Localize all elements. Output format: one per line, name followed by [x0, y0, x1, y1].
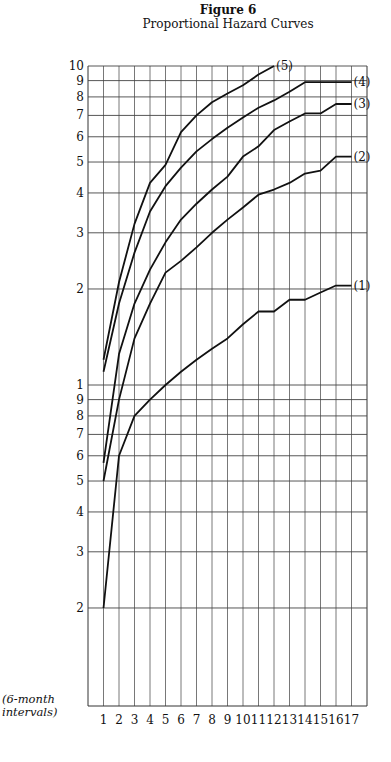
x-tick-label: 1 — [100, 713, 108, 727]
y-tick-label: 2 — [76, 282, 84, 296]
y-tick-label: 8 — [76, 409, 84, 423]
y-tick-label: 1 — [76, 378, 84, 392]
x-tick-label: 5 — [162, 713, 170, 727]
y-tick-label: 9 — [76, 393, 84, 407]
y-tick-label: 9 — [76, 74, 84, 88]
y-tick-label: 6 — [76, 449, 84, 463]
hazard-curves: (5)(4)(3)(2)(1) — [104, 59, 371, 608]
y-tick-label: 6 — [76, 130, 84, 144]
y-tick-label: 3 — [76, 545, 84, 559]
curve-label: (5) — [276, 59, 293, 73]
x-tick-label: 15 — [313, 713, 328, 727]
curve-label: (4) — [354, 75, 371, 89]
y-tick-label: 4 — [76, 505, 84, 519]
x-tick-label: 12 — [266, 713, 281, 727]
y-tick-label: 7 — [76, 108, 84, 122]
x-tick-label: 10 — [235, 713, 250, 727]
x-tick-label: 7 — [193, 713, 201, 727]
y-tick-label: 7 — [76, 427, 84, 441]
y-tick-label: 10 — [69, 59, 84, 73]
y-axis-ticks: 1098765432198765432 — [69, 59, 85, 615]
x-tick-label: 3 — [131, 713, 139, 727]
x-tick-label: 14 — [297, 713, 313, 727]
hazard-chart: 1098765432198765432 12345678910111213141… — [0, 0, 391, 762]
x-tick-label: 16 — [328, 713, 343, 727]
y-tick-label: 5 — [76, 155, 84, 169]
x-tick-label: 6 — [177, 713, 185, 727]
x-tick-label: 9 — [224, 713, 232, 727]
x-tick-label: 17 — [344, 713, 359, 727]
curve-label: (1) — [354, 279, 371, 293]
curve-label: (3) — [354, 97, 371, 111]
y-tick-label: 3 — [76, 226, 84, 240]
grid — [88, 66, 367, 706]
y-tick-label: 4 — [76, 186, 84, 200]
x-tick-label: 8 — [208, 713, 216, 727]
curve-label: (2) — [354, 150, 371, 164]
x-tick-label: 4 — [146, 713, 154, 727]
x-tick-label: 13 — [282, 713, 297, 727]
x-tick-label: 2 — [115, 713, 123, 727]
y-tick-label: 5 — [76, 474, 84, 488]
y-tick-label: 2 — [76, 601, 84, 615]
x-tick-label: 11 — [251, 713, 266, 727]
y-tick-label: 8 — [76, 90, 84, 104]
x-axis-ticks: 1234567891011121314151617 — [100, 713, 359, 727]
